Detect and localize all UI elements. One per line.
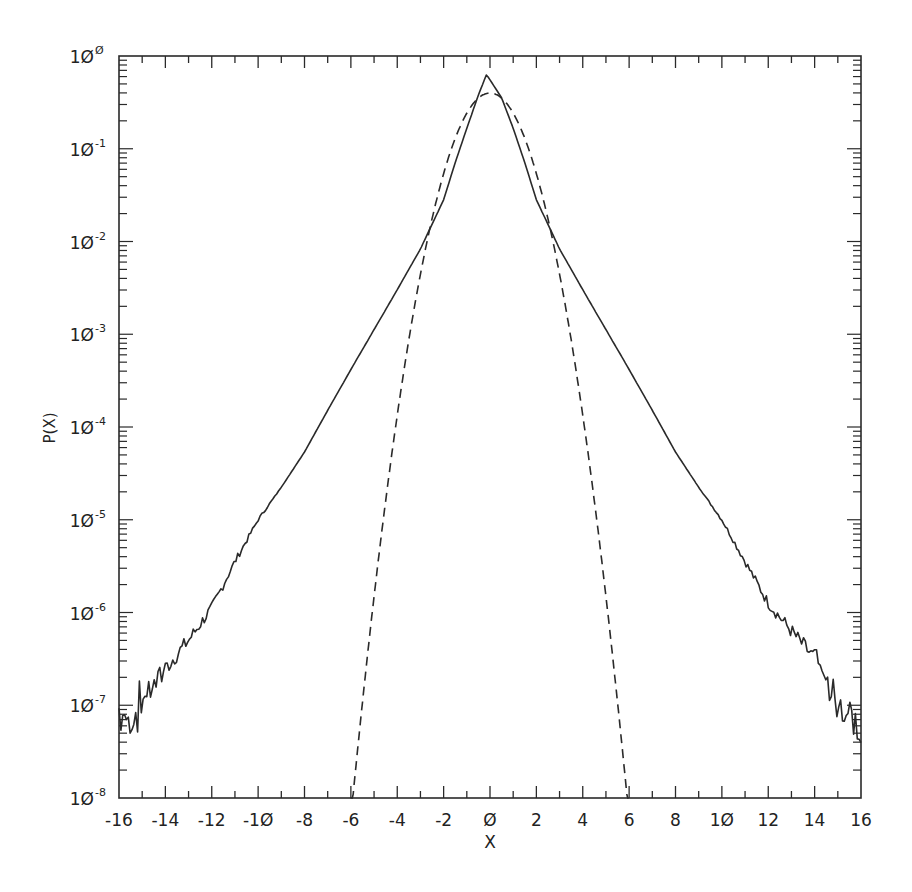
x-tick-label: -1Ø xyxy=(243,810,273,830)
x-tick-label: -16 xyxy=(105,810,133,830)
x-tick-label: Ø xyxy=(483,810,496,830)
x-tick-label: 12 xyxy=(757,810,779,830)
y-tick-exponent: -4 xyxy=(95,415,106,428)
x-tick-label: 4 xyxy=(577,810,588,830)
gaussian-curve xyxy=(350,93,628,798)
plot-border xyxy=(119,56,861,798)
y-tick-label: 1Ø xyxy=(70,789,94,809)
x-tick-label: -4 xyxy=(389,810,406,830)
x-tick-label: -8 xyxy=(296,810,313,830)
axis-ticks xyxy=(119,56,861,798)
x-axis-label: X xyxy=(484,832,496,852)
x-tick-label: 8 xyxy=(670,810,681,830)
y-tick-exponent: -3 xyxy=(95,322,106,335)
x-tick-label: 1Ø xyxy=(710,810,734,830)
x-tick-label: 6 xyxy=(624,810,635,830)
y-tick-label: 1Ø xyxy=(70,604,94,624)
y-tick-exponent: Ø xyxy=(95,44,104,57)
y-tick-label: 1Ø xyxy=(70,140,94,160)
x-tick-label: 16 xyxy=(850,810,872,830)
plot-frame xyxy=(119,56,861,798)
y-tick-label: 1Ø xyxy=(70,233,94,253)
y-tick-exponent: -5 xyxy=(95,508,106,521)
x-tick-label: 14 xyxy=(804,810,826,830)
y-tick-exponent: -1 xyxy=(95,137,106,150)
x-tick-label: 2 xyxy=(531,810,542,830)
x-tick-label: -12 xyxy=(198,810,226,830)
x-tick-label: -6 xyxy=(342,810,359,830)
y-tick-label: 1Ø xyxy=(70,696,94,716)
y-tick-exponent: -7 xyxy=(95,693,106,706)
y-tick-labels: 1ØØ1Ø-11Ø-21Ø-31Ø-41Ø-51Ø-61Ø-71Ø-8 xyxy=(70,44,106,809)
data-curves xyxy=(119,75,861,798)
y-tick-label: 1Ø xyxy=(70,511,94,531)
y-tick-exponent: -2 xyxy=(95,230,106,243)
y-tick-label: 1Ø xyxy=(70,47,94,67)
y-tick-exponent: -8 xyxy=(95,786,106,799)
y-tick-label: 1Ø xyxy=(70,325,94,345)
x-tick-label: -2 xyxy=(435,810,452,830)
y-axis-label: P(X) xyxy=(41,412,59,443)
x-tick-label: -14 xyxy=(151,810,179,830)
chart-canvas: -16-14-12-1Ø-8-6-4-2Ø24681Ø121416 1ØØ1Ø-… xyxy=(0,0,912,892)
y-tick-label: 1Ø xyxy=(70,418,94,438)
empirical-curve xyxy=(119,75,861,743)
y-tick-exponent: -6 xyxy=(95,601,106,614)
x-tick-labels: -16-14-12-1Ø-8-6-4-2Ø24681Ø121416 xyxy=(105,810,872,830)
